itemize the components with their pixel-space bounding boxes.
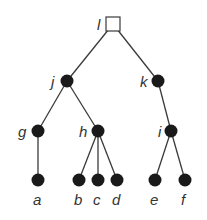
node-label-l: l [97,16,101,33]
node-label-d: d [112,191,121,208]
tree-diagram-svg: ljkghiabcdef [0,0,207,220]
edges-layer [38,24,185,180]
node-k [152,75,165,88]
node-c [92,174,105,187]
node-label-e: e [150,191,158,208]
node-label-h: h [79,123,87,140]
node-j [61,75,74,88]
node-label-b: b [74,191,82,208]
node-label-k: k [140,73,149,90]
node-label-i: i [158,123,162,140]
edge-l-k [113,24,158,81]
node-d [111,174,124,187]
node-label-c: c [93,191,101,208]
node-label-f: f [181,191,187,208]
node-a [32,174,45,187]
node-e [149,174,162,187]
tree-diagram: ljkghiabcdef [0,0,207,220]
edge-i-f [171,131,185,180]
node-label-a: a [33,191,41,208]
node-g [32,125,45,138]
node-i [165,125,178,138]
edge-h-d [98,131,117,180]
node-h [92,125,105,138]
root-node-l [106,17,120,31]
node-b [73,174,86,187]
node-label-j: j [49,73,55,90]
node-f [179,174,192,187]
edge-l-j [67,24,113,81]
node-label-g: g [18,123,27,140]
